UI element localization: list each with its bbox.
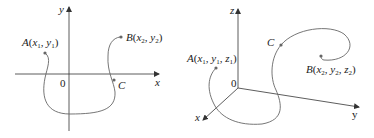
point-b-3d bbox=[319, 54, 322, 57]
point-c-label-3d: C bbox=[267, 37, 274, 48]
point-a-label-3d: A(x1, y1, z1) bbox=[187, 53, 237, 66]
z-axis-label-3d: z bbox=[230, 5, 234, 16]
point-c-3d bbox=[279, 43, 282, 46]
point-c-label-2d: C bbox=[118, 80, 125, 91]
x-axis-label-3d: x bbox=[195, 112, 200, 123]
point-a-label-2d: A(x1, y1) bbox=[22, 37, 58, 50]
point-a-2d bbox=[43, 51, 46, 54]
point-b-label-3d: B(x2, y2, z2) bbox=[306, 64, 356, 77]
origin-label-3d: 0 bbox=[231, 78, 237, 89]
point-c-2d bbox=[112, 78, 115, 81]
figure-2d bbox=[15, 7, 159, 131]
y-axis-label-2d: y bbox=[59, 4, 64, 15]
point-b-2d bbox=[119, 35, 122, 38]
y-axis-label-3d: y bbox=[352, 109, 358, 120]
point-b-label-2d: B(x2, y2) bbox=[126, 32, 162, 45]
point-a-3d bbox=[214, 66, 217, 69]
x-axis-label-2d: x bbox=[155, 77, 160, 88]
origin-label-2d: 0 bbox=[60, 78, 66, 89]
x-axis-3d bbox=[203, 88, 238, 120]
y-axis-3d bbox=[238, 88, 359, 107]
